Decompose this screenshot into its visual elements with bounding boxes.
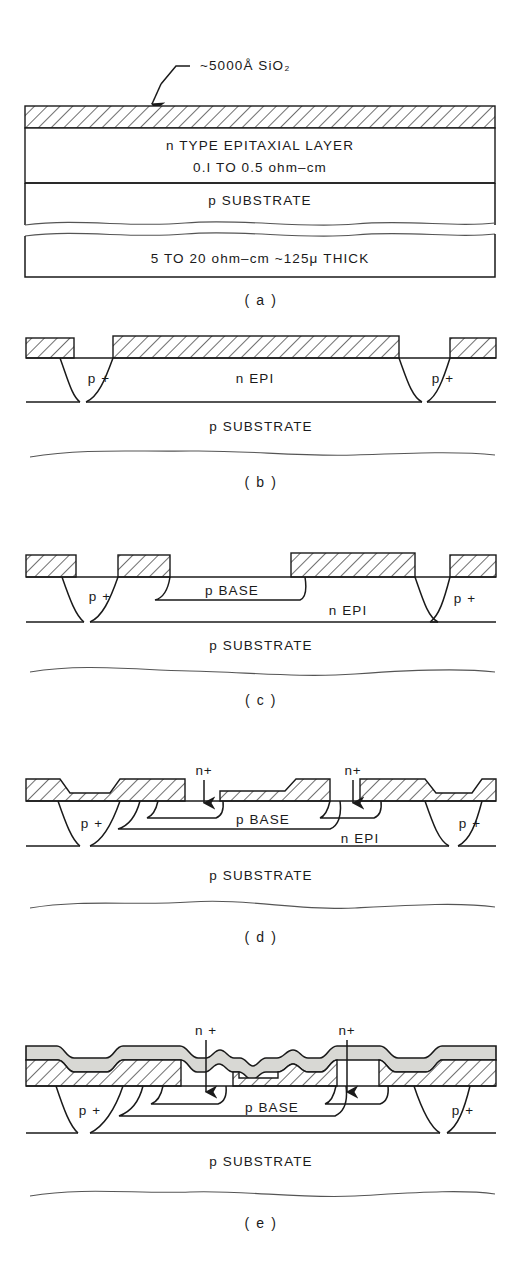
panel-c-oxide-right [450,555,496,577]
panel-e-iso-curve-3 [414,1086,440,1133]
panel-c-caption: ( c ) [245,692,277,708]
panel-e-nplus-pocket-right [325,1086,388,1104]
panel-c-oxide-base-edge [118,555,170,577]
panel-b-left-iso-label: p + [88,371,110,386]
panel-d-break-wave [30,901,495,908]
panel-e-right-iso-label: p + [452,1103,474,1118]
panel-e-nplus-left-label: n + [195,1023,217,1038]
panel-c-oxide-left [26,555,76,577]
panel-e-iso-curve-1 [56,1086,78,1133]
panel-a-substrate-label: p SUBSTRATE [208,193,311,208]
panel-d-nplus-pocket-right [320,801,381,818]
panel-c-oxide-center [291,553,415,577]
panel-d-iso-curve-3 [425,801,449,846]
panel-d-substrate-label: p SUBSTRATE [209,868,312,883]
panel-a-callout-oxide: ~5000Å SiO₂ [200,58,291,73]
panel-e-base-pocket [119,1086,347,1116]
panel-d: n+ n+ p + p BASE n EPI p + p SUBSTRATE (… [26,763,496,945]
panel-d-nplus-left-label: n+ [195,763,212,778]
panel-a-oxide-layer [25,106,495,128]
panel-a-caption: ( a ) [245,292,278,308]
panel-b-break-wave [30,451,495,457]
panel-d-oxide-center-step [220,779,330,801]
panel-b-oxide-right [450,338,496,358]
panel-a-substrate-spec-label: 5 TO 20 ohm–cm ~125μ THICK [151,251,370,266]
panel-a-break-wave-upper [25,222,495,226]
panel-d-oxide-right-step [360,779,496,801]
panel-d-right-iso-label: p + [459,816,481,831]
panel-c-epi-label: n EPI [329,603,368,618]
panel-d-nplus-pocket-left [147,801,223,818]
panel-c-iso-curve-1 [62,577,84,622]
panel-c-right-iso-label: p + [454,591,476,606]
panel-e-caption: ( e ) [245,1215,278,1231]
panel-d-caption: ( d ) [245,929,278,945]
panel-e-base-label: p BASE [245,1100,299,1115]
panel-c-substrate-label: p SUBSTRATE [209,638,312,653]
panel-b: p + n EPI p + p SUBSTRATE ( b ) [26,336,496,490]
panel-c-break-wave [30,667,495,675]
panel-c-left-iso-label: p + [89,589,111,604]
panel-b-right-iso-label: p + [432,371,454,386]
panel-b-iso-curve-3 [399,358,422,402]
panel-c-iso-curve-3 [415,577,438,622]
panel-b-iso-curve-1 [60,358,80,402]
panel-a: ~5000Å SiO₂ n TYPE EPITAXIAL LAYER 0.I T… [25,58,495,308]
process-cross-section-figure: ~5000Å SiO₂ n TYPE EPITAXIAL LAYER 0.I T… [0,0,523,1284]
panel-e-nplus-right-label: n+ [338,1023,355,1038]
panel-d-nplus-right-label: n+ [344,763,361,778]
panel-a-epi-label-line2: 0.I TO 0.5 ohm–cm [193,160,327,175]
oxide-callout-leader [152,66,190,104]
panel-b-oxide-left [26,338,74,358]
panel-d-oxide-left-step [26,779,185,801]
panel-c-iso-curve-4 [430,577,450,622]
panel-c-base-label: p BASE [205,583,259,598]
panel-d-iso-curve-1 [58,801,80,846]
panel-a-break-wave-lower [25,233,495,237]
panel-e-break-wave [30,1191,495,1196]
panel-e-nplus-pocket-left [151,1086,226,1104]
panel-b-epi-label: n EPI [236,371,275,386]
panel-d-left-iso-label: p + [81,816,103,831]
panel-d-base-label: p BASE [236,812,290,827]
panel-b-substrate-label: p SUBSTRATE [209,419,312,434]
panel-c: p + p BASE n EPI p + p SUBSTRATE ( c ) [26,553,496,708]
panel-d-epi-label: n EPI [341,831,380,846]
panel-a-epi-label-line1: n TYPE EPITAXIAL LAYER [166,138,354,153]
panel-e: n + n+ p + p BASE p + p SUBSTRATE ( e ) [26,1023,496,1231]
panel-e-substrate-label: p SUBSTRATE [209,1154,312,1169]
panel-b-oxide-center [113,336,399,358]
panel-e-left-iso-label: p + [79,1103,101,1118]
panel-b-caption: ( b ) [245,474,278,490]
